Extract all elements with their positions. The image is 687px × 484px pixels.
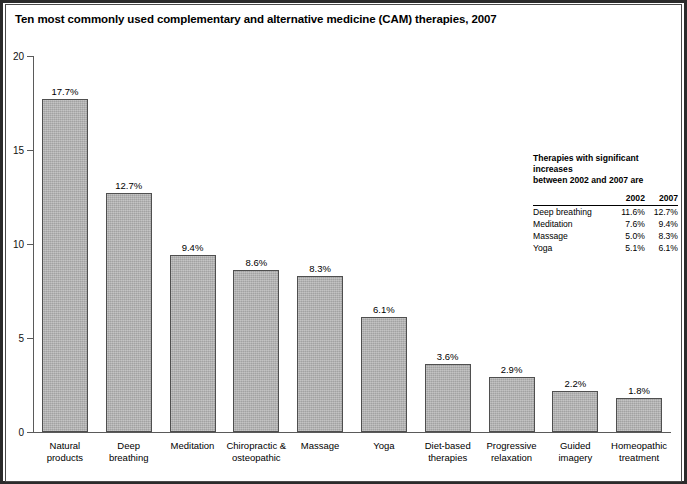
bar-value-label: 1.8% — [628, 385, 650, 396]
cell-value-2002: 11.6% — [613, 206, 645, 219]
x-axis-category-label: Diet-basedtherapies — [412, 440, 484, 463]
cell-value-2007: 8.3% — [645, 230, 678, 242]
significant-increases-table: 2002 2007 Deep breathing11.6%12.7%Medita… — [533, 193, 678, 254]
category-label-line: products — [29, 452, 101, 464]
y-tick-label: 15 — [13, 145, 24, 156]
page-title: Ten most commonly used complementary and… — [15, 13, 497, 25]
bar: 9.4% — [170, 255, 216, 432]
x-axis-category-label: Massage — [284, 440, 356, 452]
x-axis-category-label: Progressiverelaxation — [476, 440, 548, 463]
x-axis-category-label: Chiropractic &osteopathic — [220, 440, 292, 463]
bar-value-label: 12.7% — [115, 180, 142, 191]
source-caption-clipped — [14, 474, 669, 484]
bar: 17.7% — [42, 99, 88, 432]
category-label-line: breathing — [93, 452, 165, 464]
bar-value-label: 3.6% — [437, 351, 459, 362]
table-body: Deep breathing11.6%12.7%Meditation7.6%9.… — [533, 206, 678, 255]
x-axis-category-label: Meditation — [157, 440, 229, 452]
cell-value-2007: 6.1% — [645, 242, 678, 254]
bar: 1.8% — [616, 398, 662, 432]
category-label-line: Massage — [284, 440, 356, 452]
cell-therapy-name: Deep breathing — [533, 206, 613, 219]
bar-value-label: 17.7% — [51, 86, 78, 97]
y-tick-mark — [27, 56, 33, 57]
column-header-2007: 2007 — [645, 193, 678, 206]
note-title: Therapies with significant increases bet… — [533, 153, 678, 186]
bar: 2.2% — [552, 391, 598, 432]
bar-value-label: 2.9% — [501, 364, 523, 375]
cell-value-2007: 12.7% — [645, 206, 678, 219]
cell-therapy-name: Massage — [533, 230, 613, 242]
cell-value-2002: 5.1% — [613, 242, 645, 254]
table-header-row: 2002 2007 — [533, 193, 678, 206]
cell-value-2002: 5.0% — [613, 230, 645, 242]
note-title-line-2: between 2002 and 2007 are — [533, 175, 678, 186]
y-tick-mark — [27, 338, 33, 339]
x-axis-category-label: Naturalproducts — [29, 440, 101, 463]
column-header-2002: 2002 — [613, 193, 645, 206]
category-label-line: Guided — [539, 440, 611, 452]
table-row: Yoga5.1%6.1% — [533, 242, 678, 254]
cell-therapy-name: Meditation — [533, 218, 613, 230]
category-label-line: Yoga — [348, 440, 420, 452]
category-label-line: Meditation — [157, 440, 229, 452]
table-header: 2002 2007 — [533, 193, 678, 206]
category-label-line: Homeopathic — [603, 440, 675, 452]
bar: 8.6% — [233, 270, 279, 432]
category-label-line: therapies — [412, 452, 484, 464]
note-box: Therapies with significant increases bet… — [533, 153, 678, 254]
table-row: Deep breathing11.6%12.7% — [533, 206, 678, 219]
y-tick-label: 0 — [18, 427, 24, 438]
bar: 12.7% — [106, 193, 152, 432]
bar-value-label: 8.3% — [309, 263, 331, 274]
x-axis-line — [33, 432, 671, 433]
x-axis-category-label: Guidedimagery — [539, 440, 611, 463]
category-label-line: Deep — [93, 440, 165, 452]
y-tick-mark — [27, 432, 33, 433]
cell-value-2007: 9.4% — [645, 218, 678, 230]
category-label-line: treatment — [603, 452, 675, 464]
category-label-line: osteopathic — [220, 452, 292, 464]
table-row: Massage5.0%8.3% — [533, 230, 678, 242]
bar-value-label: 2.2% — [564, 378, 586, 389]
category-label-line: Chiropractic & — [220, 440, 292, 452]
bar-value-label: 9.4% — [182, 242, 204, 253]
bar: 8.3% — [297, 276, 343, 432]
category-label-line: Natural — [29, 440, 101, 452]
column-header-therapy — [533, 193, 613, 206]
bar-value-label: 6.1% — [373, 304, 395, 315]
bar: 2.9% — [489, 377, 535, 432]
note-title-line-1: Therapies with significant increases — [533, 153, 678, 175]
category-label-line: imagery — [539, 452, 611, 464]
category-label-line: relaxation — [476, 452, 548, 464]
category-label-line: Progressive — [476, 440, 548, 452]
cell-therapy-name: Yoga — [533, 242, 613, 254]
bar: 6.1% — [361, 317, 407, 432]
y-tick-label: 20 — [13, 51, 24, 62]
table-row: Meditation7.6%9.4% — [533, 218, 678, 230]
category-label-line: Diet-based — [412, 440, 484, 452]
y-tick-mark — [27, 244, 33, 245]
x-axis-category-label: Yoga — [348, 440, 420, 452]
y-axis-line — [33, 56, 34, 432]
bar: 3.6% — [425, 364, 471, 432]
y-tick-mark — [27, 150, 33, 151]
x-axis-category-label: Homeopathictreatment — [603, 440, 675, 463]
cam-therapies-figure: Ten most commonly used complementary and… — [0, 0, 687, 484]
y-tick-label: 5 — [18, 333, 24, 344]
x-axis-category-label: Deepbreathing — [93, 440, 165, 463]
y-tick-label: 10 — [13, 239, 24, 250]
bar-value-label: 8.6% — [245, 257, 267, 268]
cell-value-2002: 7.6% — [613, 218, 645, 230]
